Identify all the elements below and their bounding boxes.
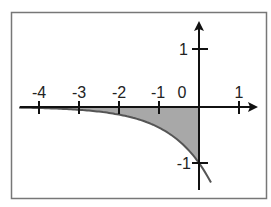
x-label-neg4: -4: [32, 84, 46, 101]
graph-figure: -4 -3 -2 -1 0 1 1 -1: [0, 0, 271, 207]
y-label-1: 1: [179, 41, 188, 58]
x-label-neg1: -1: [151, 84, 165, 101]
x-label-neg2: -2: [112, 84, 126, 101]
y-label-neg1: -1: [177, 155, 191, 172]
x-label-1: 1: [235, 84, 244, 101]
frame: [12, 13, 267, 199]
x-label-neg3: -3: [72, 84, 86, 101]
origin-label: 0: [178, 84, 187, 101]
